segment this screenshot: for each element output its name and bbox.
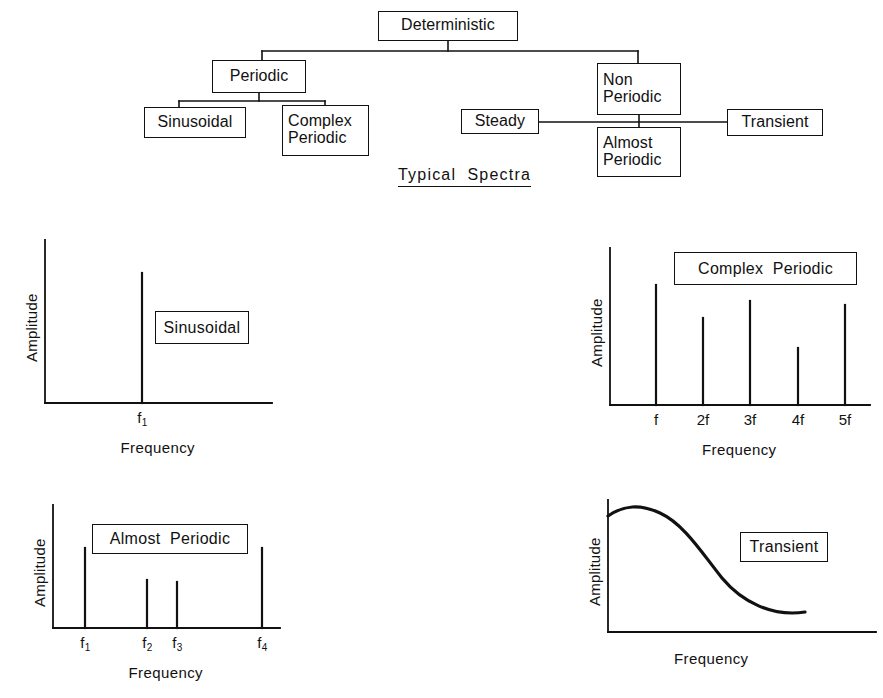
sinusoidal-spectrum-y-axis-label: Amplitude (23, 293, 40, 362)
complex-periodic-spectrum-title-tag[interactable]: Complex Periodic (674, 252, 857, 285)
tree-node-label: Almost Periodic (603, 135, 662, 169)
sinusoidal-spectrum-title-tag[interactable]: Sinusoidal (155, 311, 249, 344)
almost-periodic-spectrum-tick-label: f3 (163, 634, 191, 651)
tree-node-sinusoidal[interactable]: Sinusoidal (144, 107, 246, 138)
vector-layer (0, 0, 883, 698)
tree-node-deterministic[interactable]: Deterministic (378, 11, 518, 41)
almost-periodic-spectrum-tick-label: f1 (71, 634, 99, 651)
almost-periodic-spectrum-tick-label: f4 (248, 634, 276, 651)
tree-node-steady[interactable]: Steady (461, 109, 539, 134)
almost-periodic-spectrum-tick-label: f2 (133, 634, 161, 651)
tree-node-label: Deterministic (401, 17, 495, 34)
tree-node-label: Steady (475, 113, 525, 130)
transient-spectrum-y-axis-label: Amplitude (586, 537, 603, 606)
complex-periodic-spectrum-tick-label: f (642, 411, 670, 428)
sinusoidal-spectrum-tick-label: f1 (128, 409, 156, 426)
complex-periodic-spectrum-tick-label: 5f (831, 411, 859, 428)
almost-periodic-spectrum-x-axis-label: Frequency (129, 664, 203, 681)
complex-periodic-spectrum-y-axis-label: Amplitude (588, 298, 605, 367)
tree-node-periodic[interactable]: Periodic (212, 60, 306, 93)
tree-node-label: Non Periodic (603, 72, 662, 106)
transient-spectrum-title-tag[interactable]: Transient (740, 532, 828, 562)
complex-periodic-spectrum-tick-label: 3f (736, 411, 764, 428)
sinusoidal-spectrum-x-axis-label: Frequency (121, 439, 195, 456)
almost-periodic-spectrum-title-tag[interactable]: Almost Periodic (92, 524, 248, 554)
tree-node-label: Transient (741, 114, 808, 131)
complex-periodic-spectrum-tick-label: 4f (784, 411, 812, 428)
tree-node-complex-periodic[interactable]: Complex Periodic (282, 105, 369, 156)
figure-root: DeterministicPeriodicSinusoidalComplex P… (0, 0, 883, 698)
transient-spectrum-x-axis-label: Frequency (674, 650, 748, 667)
complex-periodic-spectrum-x-axis-label: Frequency (702, 441, 776, 458)
tree-node-label: Sinusoidal (158, 114, 233, 131)
tree-node-label: Complex Periodic (288, 113, 352, 147)
almost-periodic-spectrum-y-axis-label: Amplitude (31, 538, 48, 607)
complex-periodic-spectrum-tick-label: 2f (689, 411, 717, 428)
tree-node-label: Periodic (230, 68, 289, 85)
figure-caption: Typical Spectra (398, 166, 531, 187)
tree-node-transient[interactable]: Transient (727, 109, 823, 136)
tree-node-almost-periodic[interactable]: Almost Periodic (597, 127, 681, 177)
tree-node-non-periodic[interactable]: Non Periodic (597, 63, 681, 115)
chart-vectors (45, 240, 876, 632)
